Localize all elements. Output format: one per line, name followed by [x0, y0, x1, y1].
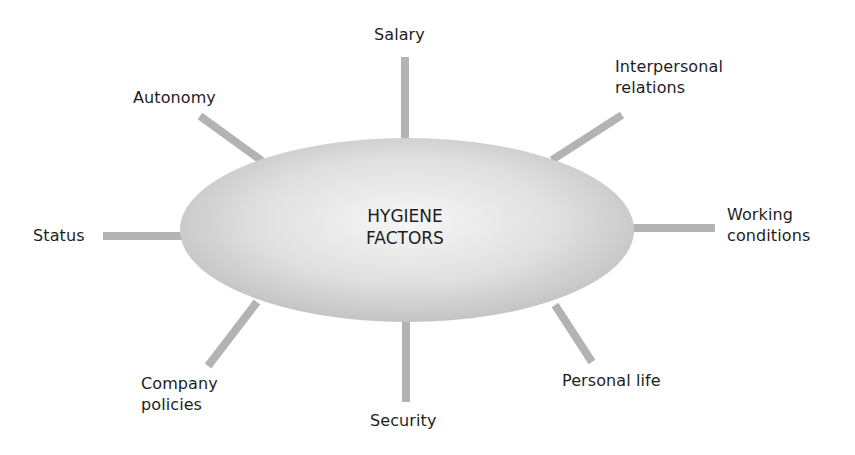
label-working-conditions: Working conditions	[727, 204, 810, 246]
label-interpersonal-relations: Interpersonal relations	[615, 56, 723, 98]
label-personal-life: Personal life	[562, 370, 661, 391]
label-salary: Salary	[374, 24, 425, 45]
label-security: Security	[370, 410, 437, 431]
label-company-policies: Company policies	[141, 373, 218, 415]
spoke-company-policies	[208, 302, 257, 366]
spoke-autonomy	[200, 116, 262, 161]
spoke-personal-life	[555, 305, 592, 362]
label-status: Status	[33, 225, 85, 246]
center-label: HYGIENE FACTORS	[330, 205, 480, 249]
spoke-interpersonal-relations	[552, 115, 622, 160]
label-autonomy: Autonomy	[133, 87, 216, 108]
